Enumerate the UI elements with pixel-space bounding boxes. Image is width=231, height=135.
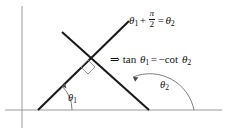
eq-top-fraction: π2 [149,9,156,30]
implies-arrow-icon: ⇒ [110,53,123,65]
theta1-subscript: 1 [73,96,77,105]
angle-arrow-theta2 [133,77,138,82]
geometry-figure: θ1 θ2 θ1+π2=θ2 ⇒tan θ1=−cot θ2 [0,0,231,135]
eq-mid-sub-2: 2 [187,58,191,67]
eq-top-denominator: 2 [149,20,156,29]
cot-function: cot [165,53,179,65]
angle-label-theta1: θ1 [68,93,77,105]
eq-mid-minus: − [158,53,164,65]
theta2-subscript: 2 [165,83,169,92]
eq-top-numerator: π [149,9,156,18]
angle-label-theta2: θ2 [160,80,169,92]
diagram-canvas [0,0,231,135]
eq-top-plus: + [138,14,147,26]
equation-tan-cot: ⇒tan θ1=−cot θ2 [110,54,191,67]
equation-theta-sum: θ1+π2=θ2 [129,9,175,30]
eq-top-sub-2: 2 [171,19,175,28]
tan-function: tan [123,53,137,65]
